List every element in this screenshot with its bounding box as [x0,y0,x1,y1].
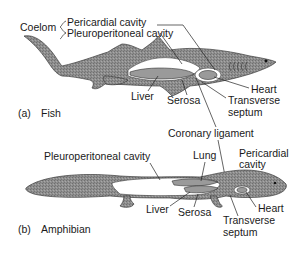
label-fish-liver: Liver [131,90,154,102]
amphibian-front-leg [210,196,222,207]
amphibian-eye [274,182,276,184]
label-amph-lung: Lung [193,149,217,161]
label-fish-transverse: Transverse [228,94,280,106]
label-coelom: Coelom [20,21,56,33]
coelom-brace [60,21,66,33]
leader-fish-transverse-septum [202,82,226,98]
fish-illustration [24,36,276,96]
label-fish-pleuroperitoneal-cavity: Pleuroperitoneal cavity [67,27,174,39]
leader-amph-transverse-septum [230,195,238,216]
label-amph-pleuroperitoneal-cavity: Pleuroperitoneal cavity [44,150,151,162]
label-amph-pericardial-cavity: cavity [239,158,267,170]
label-coronary-ligament: Coronary ligament [168,127,254,139]
amphibian-illustration [26,170,287,207]
label-fish-serosa: Serosa [167,94,200,106]
label-fish-septum: septum [228,106,263,118]
label-amph-septum: septum [223,226,258,238]
label-panel-a-title: Fish [41,107,61,119]
amphibian-heart [237,188,247,193]
anatomy-diagram: Coelom Pericardial cavity Pleuroperitone… [0,0,308,259]
label-panel-b-tag: (b) [18,223,31,235]
label-panel-b-title: Amphibian [41,223,91,235]
fish-heart [199,71,217,80]
label-amph-serosa: Serosa [178,206,211,218]
coelom-brace-lower [60,33,66,39]
label-amph-liver: Liver [146,203,169,215]
label-amph-heart: Heart [258,202,284,214]
label-panel-a-tag: (a) [18,107,31,119]
label-amph-transverse: Transverse [223,214,275,226]
fish-eye [265,60,268,63]
